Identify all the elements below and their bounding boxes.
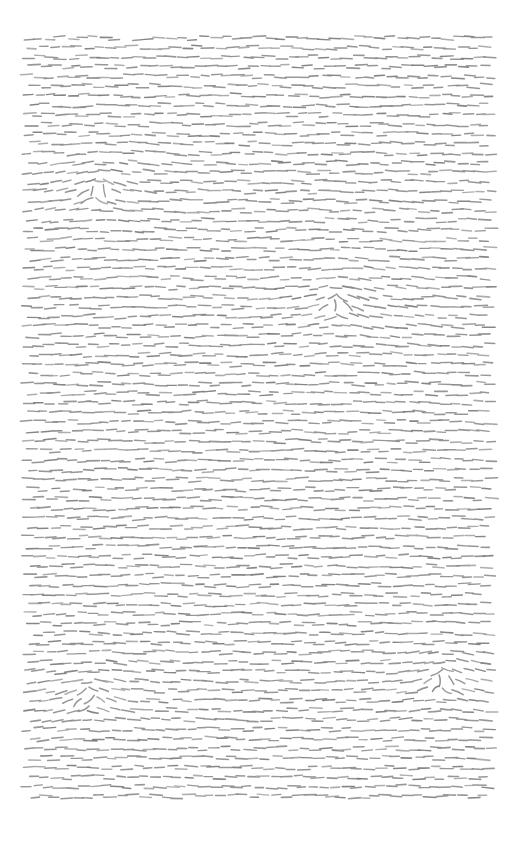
artboard: Flow Field Dash Pattern Generative vecto… <box>0 0 513 850</box>
flow-field-canvas <box>0 0 513 850</box>
